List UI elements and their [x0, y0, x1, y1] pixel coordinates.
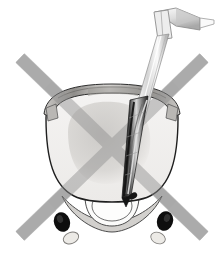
figure-container: Incorrect pedicle screw drill trajectory…: [0, 0, 224, 259]
medical-illustration: [0, 0, 224, 259]
